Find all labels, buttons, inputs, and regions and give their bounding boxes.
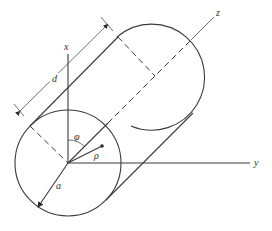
x-axis-label: x [63, 41, 69, 52]
dimension-tick-front [14, 104, 24, 116]
radius-label-a: a [56, 180, 61, 191]
z-axis-label: z [215, 7, 220, 18]
phi-label: φ [74, 131, 80, 142]
rho-point [100, 144, 104, 148]
dimension-line-d [20, 24, 108, 111]
z-axis-outer [191, 17, 214, 40]
cylinder-side-bottom [106, 113, 193, 200]
y-axis-label: y [253, 157, 259, 168]
z-axis-front [68, 123, 108, 163]
radius-a-arrow [38, 163, 68, 207]
back-dashed-radius [118, 37, 155, 76]
cylinder-diagram: z x y d φ ρ a [0, 0, 272, 231]
rho-label: ρ [93, 150, 99, 161]
z-axis-hidden [108, 40, 191, 123]
front-dashed-radius [30, 126, 68, 163]
cylinder-side-top [30, 37, 118, 126]
